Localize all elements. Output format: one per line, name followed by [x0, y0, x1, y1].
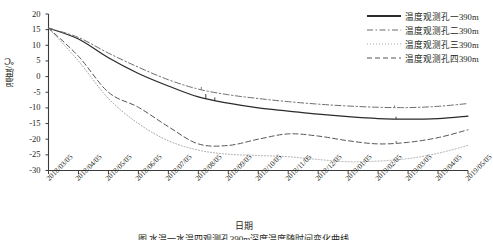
legend-item-2[interactable]: 温度观测孔二390m	[366, 23, 486, 37]
y-tick-label: -30	[15, 166, 41, 174]
legend-item-label: 温度观测孔三390m	[402, 38, 479, 50]
legend-line-swatch-icon	[366, 39, 402, 49]
y-tick-label: 10	[15, 41, 41, 49]
y-tick-label: 5	[15, 56, 41, 64]
legend-item-label: 温度观测孔二390m	[402, 24, 479, 36]
legend-item-label: 温度观测孔一390m	[402, 10, 479, 22]
y-tick-label: 15	[15, 25, 41, 33]
legend-item-4[interactable]: 温度观测孔四390m	[366, 51, 486, 65]
legend-line-swatch-icon	[366, 25, 402, 35]
legend-line-swatch-icon	[366, 11, 402, 21]
legend-item-3[interactable]: 温度观测孔三390m	[366, 37, 486, 51]
legend-line-swatch-icon	[366, 53, 402, 63]
figure-caption: 图 水温一水温四观测孔390m深度温度随时间变化曲线	[0, 232, 487, 240]
y-tick-label: 0	[15, 72, 41, 80]
y-axis-label: 温度/℃	[2, 56, 15, 87]
y-tick-label: -5	[15, 88, 41, 96]
y-tick-label: -25	[15, 150, 41, 158]
y-tick-label: -15	[15, 119, 41, 127]
legend-item-label: 温度观测孔四390m	[402, 52, 479, 64]
y-tick-label: 20	[15, 10, 41, 18]
y-tick-label: -10	[15, 103, 41, 111]
legend-item-1[interactable]: 温度观测孔一390m	[366, 9, 486, 23]
chart-legend: 温度观测孔一390m温度观测孔二390m温度观测孔三390m温度观测孔四390m	[366, 9, 486, 65]
x-axis-label: 日期	[0, 219, 487, 232]
y-tick-label: -20	[15, 135, 41, 143]
